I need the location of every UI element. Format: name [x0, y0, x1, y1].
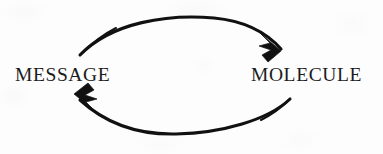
arrow-molecule-to-message: [74, 83, 290, 134]
node-label-molecule: MOLECULE: [251, 65, 362, 85]
cycle-diagram-figure: MESSAGE MOLECULE: [0, 0, 383, 154]
arrowhead-bottom: [74, 83, 97, 112]
arrow-shaft-bottom: [80, 99, 290, 134]
node-label-message: MESSAGE: [15, 65, 110, 85]
arrow-message-to-molecule: [80, 17, 281, 62]
arrow-shaft-top: [80, 17, 281, 55]
